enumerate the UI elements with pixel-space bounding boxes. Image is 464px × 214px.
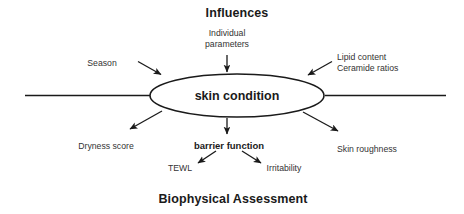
assessment-label-barrier-function: barrier function <box>194 140 264 151</box>
heading-influences: Influences <box>206 6 269 21</box>
influence-label-season: Season <box>87 58 116 68</box>
heading-biophysical-assessment: Biophysical Assessment <box>158 192 307 207</box>
arrow-skin-roughness <box>303 112 338 131</box>
arrow-irritability <box>242 151 261 163</box>
assessment-label-dryness-score: Dryness score <box>78 141 134 151</box>
assessment-label-irritability: Irritability <box>267 163 302 173</box>
fishbone-diagram: Influences Individual parameters Season … <box>0 0 464 214</box>
center-node-label: skin condition <box>195 89 280 104</box>
influence-label-lipid-ceramide: Lipid content Ceramide ratios <box>337 52 398 74</box>
assessment-label-skin-roughness: Skin roughness <box>337 144 397 154</box>
assessment-label-tewl: TEWL <box>168 163 192 173</box>
arrow-dryness-score <box>130 111 162 129</box>
arrow-tewl <box>198 151 216 163</box>
arrow-season <box>138 62 161 75</box>
influence-label-individual-parameters: Individual parameters <box>205 28 249 50</box>
arrow-lipid-ceramide <box>308 62 332 76</box>
